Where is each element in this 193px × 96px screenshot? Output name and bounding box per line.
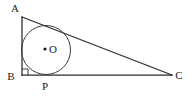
vertex-label-a: A <box>11 2 19 14</box>
geometry-diagram: A B C O P <box>0 0 193 96</box>
vertex-label-b: B <box>7 70 14 82</box>
geometry-canvas: A B C O P <box>0 0 193 96</box>
tangent-point-label-p: P <box>42 80 48 92</box>
circle-center-dot <box>43 47 46 50</box>
right-angle-marker <box>22 69 28 75</box>
circle-center-label-o: O <box>49 43 57 55</box>
vertex-label-c: C <box>175 69 182 81</box>
